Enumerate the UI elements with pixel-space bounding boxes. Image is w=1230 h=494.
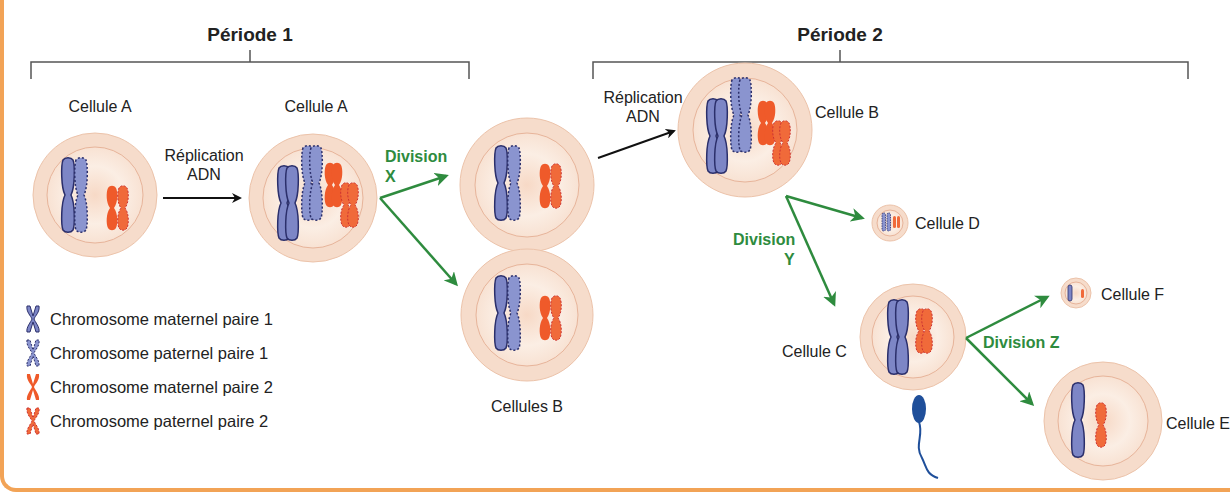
- cell-b-replicated: Cellule B: [678, 63, 879, 197]
- paternal-chromosome-pair-1-icon: [22, 338, 44, 368]
- legend-item-maternal-pair-2: Chromosome maternel paire 2: [22, 370, 273, 404]
- cell-e-label: Cellule E: [1166, 415, 1230, 432]
- svg-text:Division Z: Division Z: [983, 334, 1060, 351]
- cell-c: Cellule C: [782, 284, 966, 478]
- cell-a-after-replication: Cellule A: [249, 98, 377, 262]
- cell-c-label: Cellule C: [782, 343, 847, 360]
- svg-text:ADN: ADN: [187, 166, 221, 183]
- division-x-arrows: Division X: [380, 148, 456, 284]
- svg-text:Réplication: Réplication: [603, 89, 682, 106]
- svg-text:Y: Y: [784, 251, 795, 268]
- dna-replication-arrow-2: Réplication ADN: [598, 89, 683, 158]
- cell-b-bottom: Cellules B: [461, 249, 593, 415]
- cell-f-label: Cellule F: [1101, 286, 1164, 303]
- cell-e: Cellule E: [1044, 362, 1230, 480]
- cell-a-label: Cellule A: [68, 98, 131, 115]
- cell-a-before-replication: Cellule A: [33, 98, 157, 257]
- dna-replication-arrow-1: Réplication ADN: [163, 147, 244, 198]
- svg-text:Réplication: Réplication: [164, 147, 243, 164]
- division-z-arrows: Division Z: [966, 297, 1060, 404]
- legend-item-paternal-pair-1: Chromosome paternel paire 1: [22, 336, 273, 370]
- chromosome-legend: Chromosome maternel paire 1 Chromosome p…: [22, 302, 273, 438]
- cell-d: Cellule D: [872, 205, 980, 241]
- period-1-bracket: Période 1: [31, 24, 469, 79]
- period-1-label: Période 1: [207, 24, 293, 45]
- sperm-cell-icon: [912, 395, 938, 478]
- maternal-chromosome-pair-2-icon: [22, 372, 44, 402]
- cell-d-label: Cellule D: [915, 215, 980, 232]
- svg-text:Division: Division: [733, 231, 795, 248]
- svg-text:Division: Division: [385, 148, 447, 165]
- maternal-chromosome-pair-1-icon: [22, 304, 44, 334]
- cell-b-label: Cellule B: [815, 104, 879, 121]
- cells-b-label: Cellules B: [491, 398, 563, 415]
- paternal-chromosome-pair-2-icon: [22, 406, 44, 436]
- cell-f: Cellule F: [1061, 278, 1164, 308]
- svg-text:X: X: [385, 168, 396, 185]
- cell-b-top: [460, 118, 594, 252]
- division-y-arrows: Division Y: [733, 196, 862, 304]
- period-2-bracket: Période 2: [593, 24, 1188, 79]
- legend-item-paternal-pair-2: Chromosome paternel paire 2: [22, 404, 273, 438]
- cell-a-replicated-label: Cellule A: [284, 98, 347, 115]
- period-2-label: Période 2: [797, 24, 883, 45]
- svg-text:ADN: ADN: [626, 108, 660, 125]
- legend-item-maternal-pair-1: Chromosome maternel paire 1: [22, 302, 273, 336]
